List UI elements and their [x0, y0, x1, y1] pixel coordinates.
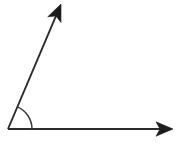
angle-diagram-figure: Angle formed by two rays [0, 0, 181, 154]
figure-background [0, 0, 181, 154]
angle-diagram-canvas [0, 0, 181, 154]
